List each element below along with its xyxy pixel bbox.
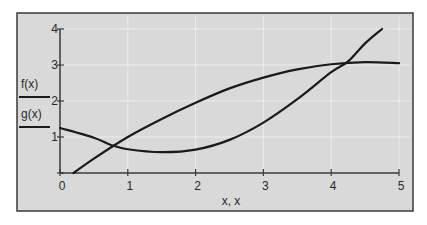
y-tick-label: 2 bbox=[51, 94, 58, 108]
plot-frame bbox=[17, 13, 413, 211]
x-axis-label: x, x bbox=[222, 194, 241, 208]
legend-label: f(x) bbox=[21, 77, 38, 91]
x-tick-label: 3 bbox=[262, 179, 269, 193]
legend-label: g(x) bbox=[21, 107, 42, 121]
y-tick-label: 4 bbox=[51, 22, 58, 36]
chart: 0123451234 f(x)g(x) x, x bbox=[0, 0, 427, 225]
y-tick-label: 1 bbox=[51, 130, 58, 144]
x-tick-label: 1 bbox=[126, 179, 133, 193]
x-tick-label: 4 bbox=[330, 179, 337, 193]
y-tick-label: 3 bbox=[51, 58, 58, 72]
x-tick-label: 5 bbox=[398, 179, 405, 193]
x-tick-label: 2 bbox=[194, 179, 201, 193]
x-tick-label: 0 bbox=[59, 179, 66, 193]
